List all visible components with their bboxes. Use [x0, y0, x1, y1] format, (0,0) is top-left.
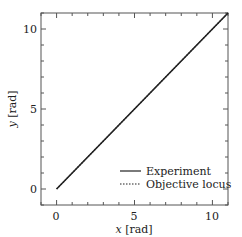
data-series	[57, 13, 228, 189]
y-axis-unit: [rad]	[6, 90, 19, 121]
y-tick-label-10: 10	[23, 23, 37, 36]
x-axis-label: x [rad]	[115, 223, 152, 236]
y-tick-label-0: 0	[30, 183, 37, 196]
x-tick-label-10: 10	[205, 210, 219, 223]
x-tick-label-5: 5	[131, 210, 138, 223]
legend-label-objective-locus: Objective locus	[146, 178, 232, 191]
legend: Experiment Objective locus	[120, 165, 232, 191]
y-tick-label-5: 5	[30, 103, 37, 116]
x-axis-unit: [rad]	[122, 223, 153, 236]
x-tick-label-0: 0	[53, 210, 60, 223]
line-chart: 0 5 10 0 5 10 x [rad] y [rad] Experiment…	[0, 0, 242, 237]
legend-label-experiment: Experiment	[146, 165, 212, 178]
y-axis-label: y [rad]	[6, 90, 19, 128]
